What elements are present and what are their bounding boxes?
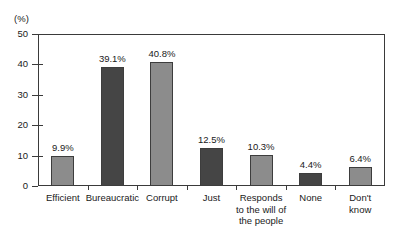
bar [51, 156, 74, 186]
bar [150, 62, 173, 186]
bar-value-label: 9.9% [33, 142, 93, 153]
x-axis-tick [88, 186, 89, 190]
x-axis-category-label-line: know [312, 204, 401, 216]
x-axis-category-label-line: to the will of [213, 204, 309, 216]
y-axis-tick-label: 30 [17, 89, 28, 100]
bar-value-label: 6.4% [330, 153, 390, 164]
bar [200, 148, 223, 186]
y-axis-tick-label: 20 [17, 119, 28, 130]
x-axis-tick [236, 186, 237, 190]
bar-chart: (%) 01020304050 9.9%39.1%40.8%12.5%10.3%… [0, 0, 401, 252]
y-axis-tick-label: 0 [23, 180, 28, 191]
y-axis-tick-label: 40 [17, 58, 28, 69]
bar-value-label: 40.8% [132, 48, 192, 59]
y-axis-unit-label: (%) [14, 13, 29, 24]
x-axis-tick [286, 186, 287, 190]
y-axis-tick-label: 10 [17, 150, 28, 161]
bar [349, 167, 372, 186]
y-axis-tick-mark-outer [32, 186, 38, 187]
x-axis-tick [137, 186, 138, 190]
y-axis-tick-label: 50 [17, 28, 28, 39]
bar [299, 173, 322, 186]
x-axis-category-label-line: the people [213, 215, 309, 227]
bar-value-label: 10.3% [231, 141, 291, 152]
x-axis-tick [187, 186, 188, 190]
bar [250, 155, 273, 186]
x-axis-tick [335, 186, 336, 190]
x-axis-category-label: Don'tknow [312, 192, 401, 215]
bar [101, 67, 124, 186]
x-axis-category-label-line: Don't [312, 192, 401, 204]
